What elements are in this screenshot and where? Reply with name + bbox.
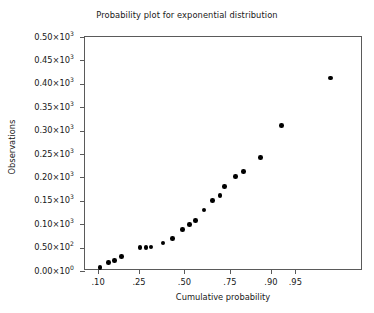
data-point bbox=[106, 260, 111, 265]
data-point bbox=[98, 265, 103, 270]
y-tick-label: 0.50×103 bbox=[0, 32, 74, 42]
y-tick-label: 0.35×103 bbox=[0, 102, 74, 112]
x-tick-label: .75 bbox=[215, 277, 245, 287]
data-point bbox=[170, 236, 175, 241]
y-tick-exponent: 3 bbox=[70, 123, 74, 130]
data-point bbox=[144, 245, 149, 250]
data-point bbox=[149, 245, 154, 250]
data-point bbox=[218, 193, 223, 198]
x-tick-mark bbox=[98, 269, 99, 274]
plot-area: 0.00×1000.50×1020.10×1030.15×1030.20×103… bbox=[84, 36, 362, 270]
y-tick-label: 0.15×103 bbox=[0, 195, 74, 205]
data-point bbox=[241, 169, 246, 174]
y-tick-exponent: 3 bbox=[70, 100, 74, 107]
y-tick-exponent: 2 bbox=[70, 240, 74, 247]
x-tick-mark bbox=[271, 269, 272, 274]
y-tick-exponent: 0 bbox=[70, 264, 74, 271]
y-tick-label: 0.30×103 bbox=[0, 125, 74, 135]
y-tick-label: 0.50×102 bbox=[0, 242, 74, 252]
data-point bbox=[187, 222, 192, 227]
data-point bbox=[180, 227, 185, 232]
y-tick-exponent: 3 bbox=[70, 194, 74, 201]
y-tick-exponent: 3 bbox=[70, 30, 74, 37]
probability-plot-figure: Probability plot for exponential distrib… bbox=[0, 0, 374, 313]
x-tick-label: .25 bbox=[124, 277, 154, 287]
data-point bbox=[161, 241, 166, 246]
y-tick-exponent: 3 bbox=[70, 77, 74, 84]
x-tick-mark bbox=[295, 269, 296, 274]
data-point bbox=[233, 174, 238, 179]
x-tick-mark bbox=[230, 269, 231, 274]
data-point bbox=[328, 76, 333, 81]
y-tick-label: 0.00×100 bbox=[0, 266, 74, 276]
data-point bbox=[112, 258, 117, 263]
y-tick-exponent: 3 bbox=[70, 147, 74, 154]
x-tick-mark bbox=[139, 269, 140, 274]
data-point bbox=[202, 208, 207, 213]
data-point bbox=[258, 155, 263, 160]
x-tick-label: .50 bbox=[169, 277, 199, 287]
y-tick-exponent: 3 bbox=[70, 53, 74, 60]
y-tick-label: 0.20×103 bbox=[0, 172, 74, 182]
x-tick-label: .10 bbox=[83, 277, 113, 287]
x-tick-label: .95 bbox=[280, 277, 310, 287]
page-title: Probability plot for exponential distrib… bbox=[0, 10, 374, 20]
data-point bbox=[222, 184, 227, 189]
y-tick-exponent: 3 bbox=[70, 217, 74, 224]
y-tick-exponent: 3 bbox=[70, 170, 74, 177]
y-tick-mark bbox=[80, 271, 85, 272]
x-axis-label: Cumulative probability bbox=[84, 292, 362, 302]
data-point bbox=[279, 123, 284, 128]
x-tick-mark bbox=[184, 269, 185, 274]
y-tick-label: 0.25×103 bbox=[0, 149, 74, 159]
y-tick-label: 0.40×103 bbox=[0, 78, 74, 88]
data-point bbox=[210, 198, 215, 203]
y-tick-label: 0.45×103 bbox=[0, 55, 74, 65]
scatter-series bbox=[85, 37, 361, 269]
data-point bbox=[119, 254, 124, 259]
y-tick-label: 0.10×103 bbox=[0, 219, 74, 229]
data-point bbox=[138, 245, 143, 250]
data-point bbox=[193, 218, 198, 223]
